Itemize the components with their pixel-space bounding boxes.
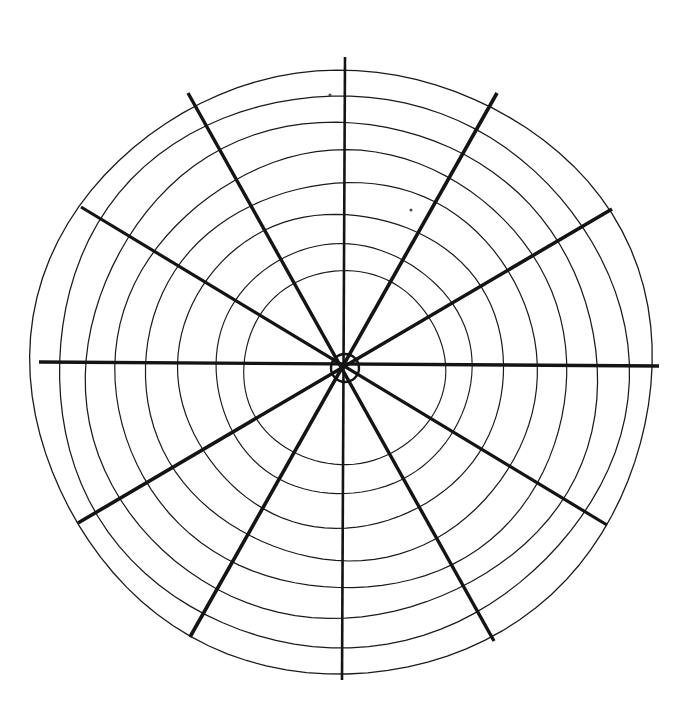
figure-canvas	[0, 0, 687, 725]
paper-speck-2	[410, 209, 413, 212]
polar-grid-figure	[0, 0, 687, 725]
paper-speck-1	[328, 93, 331, 96]
specks-group	[328, 93, 412, 211]
spokes-group	[39, 57, 659, 680]
grid-spoke-E	[39, 362, 659, 366]
